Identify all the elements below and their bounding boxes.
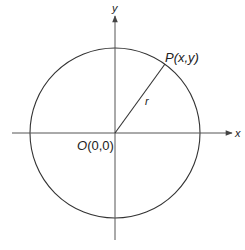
radius-label: r — [145, 95, 150, 107]
x-axis-label: x — [234, 127, 241, 139]
radius-line — [115, 64, 165, 133]
point-letter: P — [165, 50, 174, 65]
origin-letter: O — [77, 138, 87, 153]
origin-label: O(0,0) — [77, 138, 114, 153]
point-label: P(x,y) — [165, 50, 199, 65]
point-coords: (x,y) — [174, 50, 199, 65]
origin-coords: (0,0) — [87, 138, 114, 153]
unit-circle-diagram: y x P(x,y) r O(0,0) — [0, 0, 245, 250]
y-axis-label: y — [111, 2, 119, 14]
